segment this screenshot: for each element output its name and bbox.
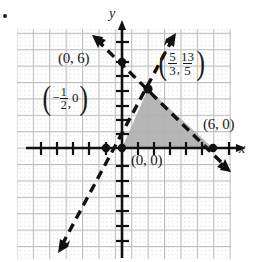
y-axis-label: y [109, 7, 115, 21]
numerator: 5 [168, 50, 177, 63]
right-paren: ) [80, 85, 88, 112]
left-paren: ( [42, 85, 50, 112]
label-point-vertex: ( 5 3 , 13 5 ) [157, 50, 206, 78]
point-vertex [143, 84, 152, 93]
fraction-five-thirds: 5 3 [168, 50, 177, 78]
numerator: 1 [60, 86, 68, 98]
label-point-6-0: (6, 0) [203, 117, 234, 132]
minus-sign: − [52, 90, 59, 106]
denominator: 3 [168, 63, 177, 77]
point-0-6 [118, 58, 126, 66]
label-point-origin: (0, 0) [131, 153, 162, 168]
x-axis-label: x [239, 142, 245, 156]
fraction-thirteen-fifths: 13 5 [180, 50, 195, 78]
left-paren: ( [158, 50, 166, 77]
zero-value: 0 [71, 90, 79, 106]
graph-figure: (0, 6) (6, 0) (0, 0) x y ( − 1 2 , 0 ) (… [0, 0, 253, 262]
fraction-one-half: 1 2 [60, 86, 68, 111]
denominator: 5 [183, 63, 192, 77]
denominator: 2 [60, 98, 68, 111]
label-point-0-6: (0, 6) [58, 51, 89, 66]
numerator: 13 [180, 50, 195, 63]
point-6-0 [209, 144, 217, 152]
label-point-neg-half-0: ( − 1 2 , 0 ) [41, 85, 90, 112]
point-neg-half-0 [102, 144, 110, 152]
point-origin [118, 144, 126, 152]
right-paren: ) [196, 50, 204, 77]
